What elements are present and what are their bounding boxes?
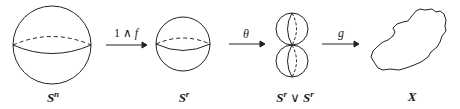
arrow-g: [322, 41, 359, 47]
label-sn-sup: n: [54, 89, 59, 99]
label-sr: Sr: [179, 89, 190, 106]
label-wedge: Sr ∨ Sr: [276, 89, 314, 106]
space-x-blob-icon: [371, 9, 446, 70]
wedge-spheres-icon: [276, 13, 308, 77]
diagram-canvas: [0, 0, 460, 109]
sphere-sr-icon: [156, 17, 210, 71]
label-f: f: [135, 26, 138, 40]
arrow-g-label: g: [338, 26, 344, 41]
label-one: 1: [114, 26, 120, 40]
label-sn: Sn: [47, 89, 59, 106]
arrow-1-wedge-f: [106, 42, 147, 48]
arrow-1-label: 1 ∧ f: [114, 26, 138, 41]
label-wedge-right-sup: r: [310, 89, 314, 99]
sphere-sn-icon: [13, 6, 91, 84]
label-wedge-left-sup: r: [283, 89, 287, 99]
label-sr-sup: r: [186, 89, 190, 99]
label-wedge-right-base: S: [303, 90, 310, 105]
label-wedge-op: ∧: [123, 26, 132, 40]
arrow-theta-label: θ: [243, 27, 249, 42]
label-x: X: [408, 89, 417, 105]
label-wedge-op: ∨: [290, 90, 300, 105]
